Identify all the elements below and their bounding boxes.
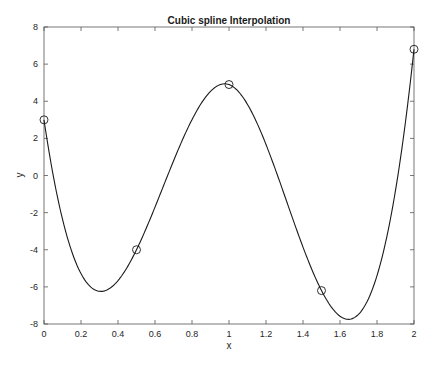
y-tick-label: -2 — [30, 208, 38, 218]
x-tick-label: 0.4 — [112, 329, 125, 339]
data-point-markers — [40, 45, 418, 294]
x-tick-label: 1.6 — [334, 329, 347, 339]
figure: Cubic spline Interpolation 00.20.40.60.8… — [0, 0, 436, 366]
x-axis-ticks: 00.20.40.60.811.21.41.61.82 — [41, 27, 416, 339]
y-tick-label: -6 — [30, 282, 38, 292]
x-tick-label: 0.2 — [75, 329, 88, 339]
x-tick-label: 1.2 — [260, 329, 273, 339]
axes — [44, 27, 414, 324]
axes-box — [44, 27, 414, 324]
y-tick-label: 2 — [33, 133, 38, 143]
x-tick-label: 0.8 — [186, 329, 199, 339]
chart-title: Cubic spline Interpolation — [168, 15, 291, 26]
y-tick-label: 4 — [33, 96, 38, 106]
x-tick-label: 0 — [41, 329, 46, 339]
spline-chart: Cubic spline Interpolation 00.20.40.60.8… — [0, 0, 436, 366]
x-tick-label: 1.4 — [297, 329, 310, 339]
x-tick-label: 0.6 — [149, 329, 162, 339]
x-tick-label: 1.8 — [371, 329, 384, 339]
x-axis-label: x — [227, 340, 232, 351]
y-tick-label: -8 — [30, 319, 38, 329]
y-tick-label: 6 — [33, 59, 38, 69]
y-tick-label: 0 — [33, 171, 38, 181]
x-tick-label: 2 — [411, 329, 416, 339]
spline-curve — [44, 49, 414, 319]
y-tick-label: -4 — [30, 245, 38, 255]
y-tick-label: 8 — [33, 22, 38, 32]
y-axis-label: y — [14, 173, 25, 178]
x-tick-label: 1 — [226, 329, 231, 339]
